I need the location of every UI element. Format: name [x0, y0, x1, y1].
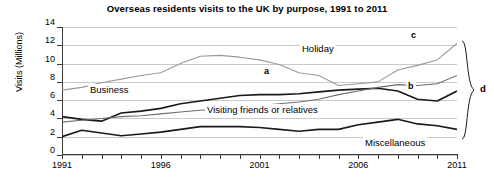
y-tick-label: 2	[25, 132, 55, 133]
y-tick-label: 12	[25, 40, 55, 41]
x-tick	[437, 155, 438, 159]
y-tick-label: 8	[25, 77, 55, 78]
x-tick	[181, 155, 182, 159]
x-tick	[378, 155, 379, 159]
annotation-d: d	[480, 83, 486, 94]
x-tick-label: 1991	[52, 160, 72, 170]
chart-container: Overseas residents visits to the UK by p…	[0, 0, 494, 180]
y-tick-label: 4	[25, 113, 55, 114]
y-tick-label: 14	[25, 22, 55, 23]
x-tick	[457, 155, 458, 159]
range-brace	[461, 40, 477, 140]
x-tick-label: 2001	[249, 160, 269, 170]
x-tick	[358, 155, 359, 159]
y-tick-label: 0	[25, 150, 55, 151]
plot-area: 02468101214 19911996200120062011 Holiday…	[62, 27, 457, 155]
x-tick	[161, 155, 162, 159]
x-tick	[279, 155, 280, 159]
x-tick	[398, 155, 399, 159]
y-tick-label: 10	[25, 59, 55, 60]
y-tick-label: 6	[25, 95, 55, 96]
annotation-a: a	[262, 66, 271, 76]
x-tick	[102, 155, 103, 159]
x-tick	[260, 155, 261, 159]
series-line	[62, 75, 457, 122]
x-tick	[200, 155, 201, 159]
annotation-b: b	[406, 81, 416, 91]
series-label: Holiday	[300, 43, 336, 54]
series-label: Miscellaneous	[363, 137, 427, 148]
x-tick-label: 1996	[151, 160, 171, 170]
series-label: Business	[88, 84, 131, 95]
y-axis-label: Visits (Millions)	[14, 7, 24, 117]
series-line	[62, 119, 457, 136]
annotation-c: c	[409, 30, 418, 40]
x-tick	[339, 155, 340, 159]
x-tick-label: 2006	[348, 160, 368, 170]
x-tick	[82, 155, 83, 159]
x-tick	[141, 155, 142, 159]
x-tick-label: 2011	[447, 160, 466, 170]
chart-title: Overseas residents visits to the UK by p…	[0, 3, 494, 14]
x-tick	[418, 155, 419, 159]
x-tick	[220, 155, 221, 159]
x-tick	[319, 155, 320, 159]
x-tick	[240, 155, 241, 159]
series-label: Visiting friends or relatives	[205, 104, 320, 115]
x-tick	[299, 155, 300, 159]
x-tick	[121, 155, 122, 159]
x-tick	[62, 155, 63, 159]
